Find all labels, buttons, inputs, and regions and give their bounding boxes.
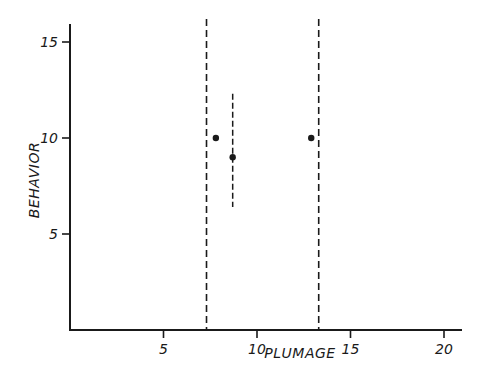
data-point (308, 135, 314, 141)
x-tick-label: 5 (159, 341, 168, 357)
x-axis-title: PLUMAGE (264, 345, 335, 361)
x-tick-label: 15 (342, 341, 360, 357)
y-tick-label: 5 (49, 226, 58, 242)
y-tick-label: 10 (40, 130, 58, 146)
x-tick-label: 10 (248, 341, 266, 357)
y-axis-title: BEHAVIOR (26, 142, 42, 218)
y-tick-label: 15 (40, 34, 58, 50)
data-point (213, 135, 219, 141)
reference-lines (207, 19, 319, 330)
x-tick-label: 20 (435, 341, 453, 357)
data-point (229, 154, 235, 160)
ticks: 510152051015 (40, 34, 453, 357)
scatter-chart: 510152051015 PLUMAGE BEHAVIOR (0, 0, 487, 380)
axes (69, 24, 462, 330)
data-points (213, 135, 315, 161)
